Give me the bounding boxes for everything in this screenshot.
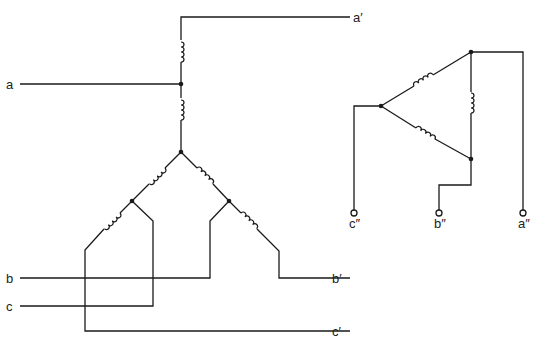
wire-right-coil-to-node [213,184,229,201]
label-c-prime: c′ [332,324,342,339]
label-c-double-prime: c″ [349,216,361,231]
wire-a-double-prime [471,52,523,210]
coil-upper [181,42,184,62]
coil-left-lower [104,213,122,231]
right-junctions [379,50,474,162]
label-b: b [6,271,13,286]
label-a: a [6,77,14,92]
wire-delta-top-2 [433,52,471,75]
label-a-prime: a′ [353,10,363,25]
label-c: c [6,299,13,314]
wire-delta-bottom-1 [381,106,416,128]
wire-right-node-down [229,201,241,213]
left-zigzag-winding [20,17,350,331]
label-b-prime: b′ [332,271,342,286]
right-delta-winding [354,52,523,210]
wire-b-double-prime [439,159,471,210]
wire-neutral-left [165,152,181,168]
coil-delta-top [412,72,432,86]
wire-b [20,201,229,278]
coil-left-upper [149,168,167,186]
coil-right-lower [241,211,259,229]
coil-delta-right [471,93,474,113]
coil-delta-bottom [416,125,436,139]
wire-neutral-right [181,152,197,168]
coil-lower [181,100,184,120]
wire-c [20,201,153,306]
wire-a-prime [181,17,350,40]
wire-delta-bottom-2 [435,139,471,159]
transformer-diagram: a b c a′ b′ c′ c″ b″ a″ [0,0,545,345]
wire-left-node-down [120,201,132,213]
junction-a [179,82,184,87]
junction-delta-left [379,104,384,109]
junction-delta-bottom [469,157,474,162]
wire-c-prime [85,229,350,331]
junction-delta-top [469,50,474,55]
wire-left-coil-to-node [132,184,149,201]
wire-delta-top-1 [381,86,414,106]
coil-right-upper [197,166,215,184]
wire-c-double-prime [354,106,381,210]
junction-neutral [179,150,184,155]
junction-right [227,199,232,204]
label-b-double-prime: b″ [434,216,446,231]
junction-left [130,199,135,204]
label-a-double-prime: a″ [518,216,530,231]
